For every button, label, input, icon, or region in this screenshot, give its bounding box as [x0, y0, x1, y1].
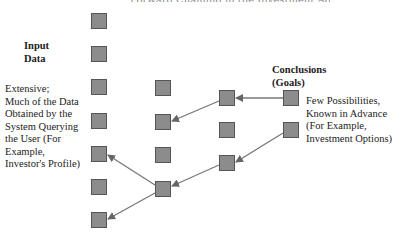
arrow-c2-to-b3 [236, 133, 283, 162]
input-data-heading: Input Data [24, 40, 49, 65]
conclusions-heading: Conclusions (Goals) [272, 64, 326, 89]
arrow-a4-to-input7 [108, 193, 155, 219]
arrow-a4-to-input5 [108, 155, 155, 185]
arrow-b3-to-a4 [172, 165, 219, 186]
conclusions-description: Few Possibilities, Known in Advance (For… [306, 95, 392, 145]
input-data-description: Extensive; Much of the Data Obtained by … [5, 83, 80, 171]
arrow-b1-to-a2 [172, 101, 219, 121]
